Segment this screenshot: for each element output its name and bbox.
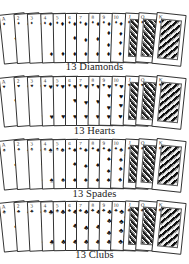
diamonds-icon: ♦ <box>113 20 118 25</box>
clubs-icon: ♣ <box>78 208 83 213</box>
card-corner-index: 6♠ <box>67 141 72 151</box>
card-corner-index: 10♣ <box>113 203 118 213</box>
spades-pip-icon: ♠ <box>119 166 123 173</box>
diamonds-icon: ♦ <box>1 21 6 26</box>
spades-icon: ♠ <box>90 146 95 151</box>
clubs-icon: ♣ <box>55 208 60 213</box>
card-corner-index: 7♠ <box>78 141 83 151</box>
card-corner-index: 5♥ <box>55 78 60 88</box>
card-corner-index: 7♦ <box>78 15 83 25</box>
card-corner-index: A♣ <box>1 204 7 214</box>
spades-pip-icon: ♠ <box>61 147 65 154</box>
card-corner-index: A♥ <box>1 79 7 89</box>
spades-icon: ♠ <box>113 146 118 151</box>
card-corner-index: 8♦ <box>90 15 95 25</box>
hearts-icon: ♥ <box>113 83 118 88</box>
card-corner-index: 2♠ <box>16 142 22 152</box>
card-corner-index: 9♥ <box>101 78 106 88</box>
hearts-icon: ♥ <box>78 83 83 88</box>
diamonds-pip-icon: ♦ <box>119 31 123 38</box>
spades-icon: ♠ <box>16 147 21 152</box>
card-corner-index: 3♠ <box>29 141 35 151</box>
hearts-icon: ♥ <box>55 83 60 88</box>
card-corner-index: 9♦ <box>101 15 106 25</box>
card-corner-index: 4♦ <box>42 15 47 25</box>
clubs-icon: ♣ <box>29 208 34 213</box>
diamonds-icon: ♦ <box>55 20 60 25</box>
card-k-of-hearts: K♥ <box>151 75 186 130</box>
spades-icon: ♠ <box>29 146 34 151</box>
hearts-icon: ♥ <box>90 83 95 88</box>
card-corner-index: 5♦ <box>55 15 60 25</box>
face-card-portrait <box>157 144 182 186</box>
card-corner-index: 10♠ <box>113 141 118 151</box>
hearts-pip-icon: ♥ <box>119 84 123 91</box>
card-corner-index: 9♠ <box>101 141 106 151</box>
card-corner-index: 4♣ <box>42 203 47 213</box>
card-corner-index: 6♦ <box>67 15 72 25</box>
card-corner-index: 6♣ <box>67 203 72 213</box>
clubs-icon: ♣ <box>90 208 95 213</box>
diamonds-icon: ♦ <box>78 20 83 25</box>
spades-icon: ♠ <box>78 146 83 151</box>
spades-pip-icon: ♠ <box>119 157 123 164</box>
spades-icon: ♠ <box>67 146 72 151</box>
diamonds-pip-icon: ♦ <box>119 21 123 28</box>
hearts-pip-icon: ♥ <box>119 94 123 101</box>
card-corner-index: 3♦ <box>29 15 35 25</box>
spades-pip-icon: ♠ <box>119 147 123 154</box>
diamonds-pip-icon: ♦ <box>119 40 123 47</box>
hearts-icon: ♥ <box>1 84 6 89</box>
spades-icon: ♠ <box>1 147 6 152</box>
clubs-icon: ♣ <box>1 209 6 214</box>
diamonds-icon: ♦ <box>29 20 34 25</box>
clubs-icon: ♣ <box>16 209 21 214</box>
card-corner-index: 4♠ <box>42 141 47 151</box>
diamonds-pip-icon: ♦ <box>48 21 52 28</box>
card-corner-index: 3♣ <box>29 203 35 213</box>
card-corner-index: 3♥ <box>29 78 35 88</box>
hearts-icon: ♥ <box>29 83 34 88</box>
card-corner-index: 8♥ <box>90 78 95 88</box>
diamonds-pip-icon: ♦ <box>118 51 122 58</box>
spades-icon: ♠ <box>42 146 47 151</box>
card-corner-index: 7♥ <box>78 78 83 88</box>
spades-icon: ♠ <box>55 146 60 151</box>
clubs-icon: ♣ <box>67 208 72 213</box>
card-corner-index: 2♣ <box>16 204 22 214</box>
clubs-icon: ♣ <box>101 208 106 213</box>
diamonds-pip-icon: ♦ <box>84 21 88 28</box>
card-corner-index: 8♣ <box>90 203 95 213</box>
diamonds-icon: ♦ <box>90 20 95 25</box>
card-corner-index: 10♥ <box>113 78 118 88</box>
hearts-pip-icon: ♥ <box>119 103 123 110</box>
spades-icon: ♠ <box>101 146 106 151</box>
hearts-icon: ♥ <box>16 84 21 89</box>
hearts-icon: ♥ <box>101 83 106 88</box>
hearts-icon: ♥ <box>42 83 47 88</box>
card-corner-index: 4♥ <box>42 78 47 88</box>
diamonds-pip-icon: ♦ <box>61 21 65 28</box>
card-corner-index: 5♣ <box>55 203 60 213</box>
spades-pip-icon: ♠ <box>118 177 122 184</box>
card-corner-index: 6♥ <box>67 78 72 88</box>
clubs-icon: ♣ <box>42 208 47 213</box>
diamonds-icon: ♦ <box>67 20 72 25</box>
clubs-icon: ♣ <box>113 208 118 213</box>
card-corner-index: A♦ <box>1 16 7 26</box>
card-corner-index: 10♦ <box>113 15 118 25</box>
card-corner-index: 9♣ <box>101 203 106 213</box>
diamonds-icon: ♦ <box>101 20 106 25</box>
card-corner-index: 2♦ <box>16 16 22 26</box>
card-corner-index: 7♣ <box>78 203 83 213</box>
face-card-portrait <box>157 18 182 60</box>
diamonds-icon: ♦ <box>42 20 47 25</box>
card-k-of-clubs: K♣ <box>151 200 186 255</box>
card-corner-index: A♠ <box>1 142 7 152</box>
hearts-icon: ♥ <box>67 83 72 88</box>
card-k-of-diamonds: K♦ <box>151 12 186 67</box>
card-corner-index: 8♠ <box>90 141 95 151</box>
card-k-of-spades: K♠ <box>151 138 186 193</box>
card-corner-index: 5♠ <box>55 141 60 151</box>
face-card-portrait <box>157 81 182 123</box>
